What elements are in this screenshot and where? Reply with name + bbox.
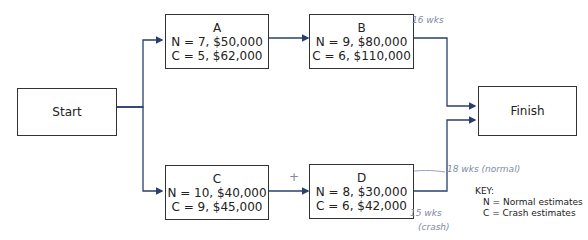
activity-b-name: B: [310, 21, 413, 35]
legend-normal: N = Normal estimates: [475, 197, 583, 208]
start-label: Start: [52, 105, 81, 119]
activity-a-node: A N = 7, $50,000 C = 5, $62,000: [165, 14, 269, 69]
d-crash-sub: (crash): [418, 222, 450, 232]
activity-b-normal: N = 9, $80,000: [310, 35, 413, 49]
d-crash-note: 15 wks: [410, 208, 442, 218]
legend-title: KEY:: [475, 186, 583, 197]
activity-d-name: D: [310, 171, 413, 185]
b-duration-note: 16 wks: [412, 15, 444, 25]
activity-c-normal: N = 10, $40,000: [166, 186, 268, 200]
plus-mark: +: [289, 170, 299, 184]
activity-a-crash: C = 5, $62,000: [166, 49, 268, 63]
finish-label: Finish: [510, 104, 544, 118]
start-node: Start: [17, 88, 117, 136]
activity-c-node: C N = 10, $40,000 C = 9, $45,000: [165, 165, 269, 220]
activity-b-node: B N = 9, $80,000 C = 6, $110,000: [309, 14, 414, 69]
activity-c-crash: C = 9, $45,000: [166, 200, 268, 214]
activity-d-node: D N = 8, $30,000 C = 6, $42,000: [309, 164, 414, 219]
activity-d-normal: N = 8, $30,000: [310, 185, 413, 199]
activity-d-crash: C = 6, $42,000: [310, 199, 413, 213]
legend-crash: C = Crash estimates: [475, 208, 583, 219]
activity-b-crash: C = 6, $110,000: [310, 49, 413, 63]
legend: KEY: N = Normal estimates C = Crash esti…: [475, 186, 583, 219]
finish-node: Finish: [478, 86, 577, 136]
activity-c-name: C: [166, 172, 268, 186]
d-normal-note: 18 wks (normal): [447, 164, 520, 174]
activity-a-normal: N = 7, $50,000: [166, 35, 268, 49]
activity-a-name: A: [166, 21, 268, 35]
